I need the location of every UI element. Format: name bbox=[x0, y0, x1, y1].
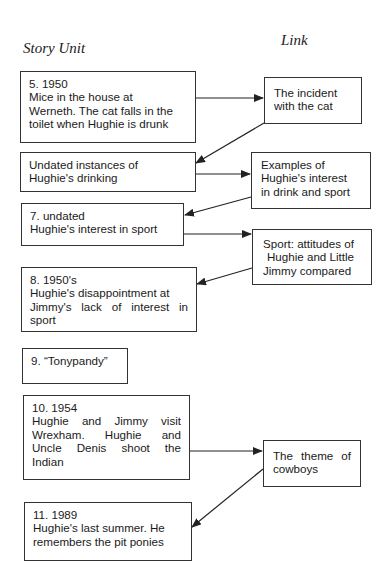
link-text: Hughie's interest bbox=[261, 171, 361, 184]
unit-heading: 10. 1954 bbox=[32, 401, 181, 414]
unit-text: toilet when Hughie is drunk bbox=[29, 117, 187, 130]
story-unit-10: 10. 1954 Hughie and Jimmy visit Wrexham.… bbox=[23, 395, 190, 480]
header-story-unit: Story Unit bbox=[23, 40, 85, 57]
unit-heading: 7. undated bbox=[30, 209, 175, 222]
link-text: with the cat bbox=[274, 99, 352, 112]
link-theme-of-cowboys: The theme of cowboys bbox=[263, 440, 361, 487]
unit-text: Indian bbox=[32, 455, 181, 468]
unit-text: Hughie's interest in sport bbox=[30, 222, 175, 235]
link-sport-attitudes: Sport: attitudes of Hughie and Little Ji… bbox=[252, 229, 372, 285]
unit-text: Wrexham. Hughie and bbox=[32, 428, 181, 441]
unit-text: Jimmy's lack of interest in bbox=[30, 300, 188, 313]
story-unit-undated-drinking: Undated instances of Hughie's drinking bbox=[20, 152, 196, 192]
story-unit-5: 5. 1950 Mice in the house at Werneth. Th… bbox=[20, 71, 196, 143]
link-text: The incident bbox=[274, 86, 352, 99]
story-unit-11: 11. 1989 Hughie's last summer. He rememb… bbox=[24, 502, 192, 561]
unit-text: Mice in the house at bbox=[29, 90, 187, 103]
link-text: in drink and sport bbox=[261, 185, 361, 198]
arrow-link-cowboys-to-unit11 bbox=[192, 469, 263, 527]
unit-text: Hughie and Jimmy visit bbox=[32, 414, 181, 427]
link-text: Hughie and Little bbox=[263, 250, 362, 263]
story-unit-9: 9. “Tonypandy” bbox=[22, 348, 128, 384]
link-text: Examples of bbox=[261, 158, 361, 171]
unit-text: sport bbox=[30, 313, 188, 326]
link-text: Sport: attitudes of bbox=[263, 237, 362, 250]
unit-text: Werneth. The cat falls in the bbox=[29, 104, 187, 117]
story-unit-7: 7. undated Hughie's interest in sport bbox=[21, 203, 184, 246]
link-text: cowboys bbox=[273, 462, 351, 475]
arrow-link-sport-to-unit8 bbox=[197, 268, 252, 284]
unit-heading: 9. “Tonypandy” bbox=[31, 354, 119, 367]
story-unit-8: 8. 1950's Hughie's disappointment at Jim… bbox=[21, 267, 197, 332]
unit-text: Hughie's disappointment at bbox=[30, 286, 188, 299]
unit-heading: 5. 1950 bbox=[29, 77, 187, 90]
arrow-link-drink-to-unit7 bbox=[185, 197, 251, 215]
unit-heading: 8. 1950's bbox=[30, 273, 188, 286]
link-text: Jimmy compared bbox=[263, 264, 362, 277]
unit-heading: 11. 1989 bbox=[33, 508, 183, 521]
unit-text: Hughie's last summer. He bbox=[33, 521, 183, 534]
unit-heading: Undated instances of bbox=[29, 158, 187, 171]
link-incident-with-cat: The incident with the cat bbox=[264, 77, 362, 124]
header-link: Link bbox=[281, 32, 308, 49]
link-drink-and-sport: Examples of Hughie's interest in drink a… bbox=[251, 152, 371, 209]
unit-text: Hughie's drinking bbox=[29, 171, 187, 184]
link-text: The theme of bbox=[273, 449, 351, 462]
unit-text: Uncle Denis shoot the bbox=[32, 441, 181, 454]
unit-text: remembers the pit ponies bbox=[33, 535, 183, 548]
